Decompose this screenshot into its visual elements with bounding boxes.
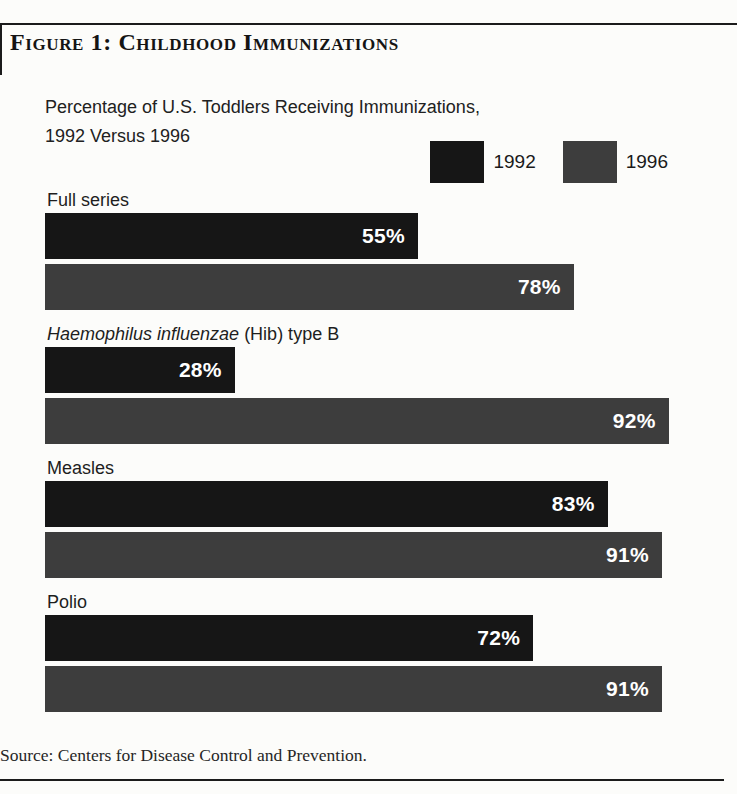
bar-value-label: 78% <box>518 275 561 299</box>
bar-value-label: 28% <box>179 358 222 382</box>
bar-1996-polio: 91% <box>45 666 662 712</box>
bar-1992-hib: 28% <box>45 347 235 393</box>
bar-1996-hib: 92% <box>45 398 669 444</box>
source-note: Source: Centers for Disease Control and … <box>0 745 367 766</box>
legend: 1992 1996 <box>430 141 668 183</box>
chart-group-measles: Measles 83% 91% <box>45 458 723 578</box>
figure-left-tick <box>0 23 2 75</box>
bar-value-label: 91% <box>606 677 649 701</box>
chart-group-hib: Haemophilus influenzae (Hib) type B 28% … <box>45 324 723 444</box>
figure-page: Figure 1: Childhood Immunizations Percen… <box>0 0 737 794</box>
category-label: Full series <box>47 190 723 210</box>
figure-title: Figure 1: Childhood Immunizations <box>10 29 399 56</box>
figure-bottom-rule <box>0 779 724 781</box>
bar-value-label: 72% <box>477 626 520 650</box>
bar-value-label: 83% <box>552 492 595 516</box>
legend-label-1992: 1992 <box>493 151 535 173</box>
figure-top-rule <box>0 23 737 25</box>
legend-label-1996: 1996 <box>626 151 668 173</box>
chart-group-full-series: Full series 55% 78% <box>45 190 723 310</box>
legend-swatch-1996 <box>563 141 617 183</box>
bar-1992-full-series: 55% <box>45 213 418 259</box>
chart-group-polio: Polio 72% 91% <box>45 592 723 712</box>
bar-1996-full-series: 78% <box>45 264 574 310</box>
bar-value-label: 91% <box>606 543 649 567</box>
category-label: Haemophilus influenzae (Hib) type B <box>47 324 723 344</box>
bar-1996-measles: 91% <box>45 532 662 578</box>
bar-chart: Full series 55% 78% Haemophilus influenz… <box>45 190 723 726</box>
bar-1992-polio: 72% <box>45 615 533 661</box>
legend-swatch-1992 <box>430 141 484 183</box>
category-label: Measles <box>47 458 723 478</box>
bar-value-label: 92% <box>613 409 656 433</box>
category-label-rest: Polio <box>47 592 87 612</box>
legend-entry-1992: 1992 <box>430 141 535 183</box>
chart-subtitle-line1: Percentage of U.S. Toddlers Receiving Im… <box>45 93 605 122</box>
bar-1992-measles: 83% <box>45 481 608 527</box>
category-label-rest: Measles <box>47 458 114 478</box>
category-label-rest: Full series <box>47 190 129 210</box>
category-label-rest: (Hib) type B <box>239 324 339 344</box>
bar-value-label: 55% <box>362 224 405 248</box>
category-label: Polio <box>47 592 723 612</box>
legend-entry-1996: 1996 <box>563 141 668 183</box>
category-label-italic: Haemophilus influenzae <box>47 324 239 344</box>
